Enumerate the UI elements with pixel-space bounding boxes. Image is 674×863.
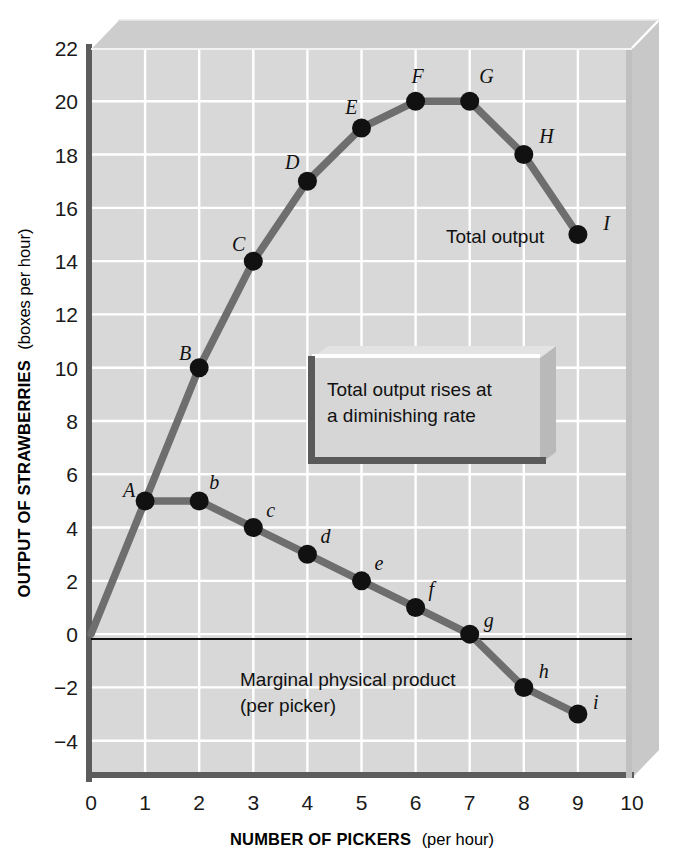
point-label-B: B: [179, 342, 191, 364]
production-function-chart: Total output rises at a diminishing rate…: [0, 0, 674, 863]
point-label-I: I: [602, 212, 611, 234]
data-point-marker: [460, 625, 479, 644]
x-axis-title-main: NUMBER OF PICKERS: [230, 830, 411, 848]
x-tick-label: 0: [85, 791, 97, 814]
data-point-marker: [406, 598, 425, 617]
y-tick-label: 16: [55, 197, 78, 220]
point-label-g: g: [484, 609, 494, 632]
point-label-G: G: [479, 65, 494, 87]
y-tick-label: 4: [66, 517, 78, 540]
mpp-series-label: Marginal physical product: [240, 669, 456, 690]
x-tick-label: 1: [139, 791, 151, 814]
data-point-marker: [514, 145, 533, 164]
point-label-A: A: [121, 479, 136, 501]
x-tick-label: 9: [572, 791, 584, 814]
data-point-marker: [460, 92, 479, 111]
data-point-marker: [244, 518, 263, 537]
mpp-series-label-line2: (per picker): [240, 695, 336, 716]
panel-3d-top-face: [91, 20, 659, 48]
data-point-marker: [568, 705, 587, 724]
callout-3d-side: [540, 346, 556, 464]
x-axis-tick-labels: 012345678910: [85, 791, 644, 814]
data-point-marker: [352, 571, 371, 590]
data-point-marker: [514, 678, 533, 697]
callout-box: Total output rises at a diminishing rate: [308, 346, 556, 464]
x-tick-label: 6: [410, 791, 422, 814]
y-tick-label: 12: [55, 303, 78, 326]
y-axis-title-sub: (boxes per hour): [15, 229, 33, 350]
x-tick-label: 5: [356, 791, 368, 814]
data-point-marker: [190, 491, 209, 510]
y-tick-label: 8: [66, 410, 78, 433]
y-tick-label: −2: [54, 676, 78, 699]
x-tick-label: 3: [247, 791, 259, 814]
point-label-F: F: [410, 65, 424, 87]
plot-right-edge: [626, 48, 632, 778]
data-point-marker: [136, 491, 155, 510]
x-axis-title-group: NUMBER OF PICKERS (per hour): [230, 830, 494, 848]
point-label-b: b: [209, 471, 219, 493]
data-point-marker: [298, 172, 317, 191]
data-point-marker: [352, 118, 371, 137]
y-tick-label: 6: [66, 463, 78, 486]
y-tick-label: 22: [55, 37, 78, 60]
point-label-E: E: [344, 96, 357, 118]
y-tick-label: 10: [55, 357, 78, 380]
x-tick-label: 2: [193, 791, 205, 814]
x-tick-label: 8: [518, 791, 530, 814]
callout-bottom-edge: [308, 457, 546, 464]
y-axis-title-group: OUTPUT OF STRAWBERRIES (boxes per hour): [15, 229, 33, 598]
x-tick-label: 4: [302, 791, 314, 814]
x-tick-label: 7: [464, 791, 476, 814]
y-axis-line: [86, 44, 92, 782]
data-point-marker: [298, 545, 317, 564]
point-label-D: D: [284, 151, 300, 173]
data-point-marker: [190, 358, 209, 377]
point-label-c: c: [266, 499, 275, 521]
callout-line-2: a diminishing rate: [327, 405, 476, 426]
y-tick-label: −4: [54, 730, 78, 753]
data-point-marker: [568, 225, 587, 244]
y-tick-label: 2: [66, 570, 78, 593]
x-axis-title-sub: (per hour): [422, 830, 494, 848]
callout-left-edge: [308, 356, 315, 464]
panel-3d-right-face: [632, 20, 659, 778]
y-axis-title-main: OUTPUT OF STRAWBERRIES: [15, 360, 33, 597]
x-tick-label: 10: [620, 791, 643, 814]
point-label-e: e: [375, 552, 384, 574]
y-axis-title-wrap: OUTPUT OF STRAWBERRIES (boxes per hour): [15, 229, 33, 598]
y-tick-label: 18: [55, 144, 78, 167]
point-label-d: d: [320, 525, 331, 547]
total-output-series-label: Total output: [446, 226, 545, 247]
point-label-h: h: [539, 660, 549, 682]
y-tick-label: 20: [55, 90, 78, 113]
y-tick-label: 14: [55, 250, 79, 273]
data-point-marker: [406, 92, 425, 111]
x-axis-line: [86, 772, 634, 778]
data-point-marker: [244, 252, 263, 271]
callout-line-1: Total output rises at: [327, 379, 492, 400]
y-axis-tick-labels: 2220181614121086420−2−4: [54, 37, 78, 753]
point-label-i: i: [593, 691, 599, 713]
point-label-H: H: [538, 125, 555, 147]
point-label-C: C: [232, 233, 246, 255]
y-tick-label: 0: [66, 623, 78, 646]
